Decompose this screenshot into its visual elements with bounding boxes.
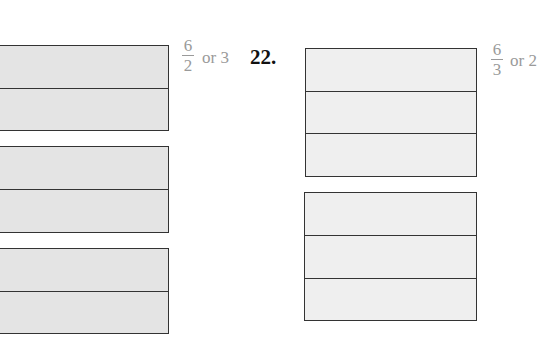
divider-line [0,88,168,89]
numerator: 6 [491,41,503,58]
fraction-bar-22-2 [304,192,477,321]
numerator: 6 [182,37,194,54]
problem-number-22: 22. [250,45,276,70]
denominator: 2 [182,57,194,74]
fraction-bar-21-1 [0,45,169,131]
answer-fraction-22: 6 3 [491,41,503,78]
answer-fraction-21: 6 2 [182,37,194,74]
divider-line [305,278,476,279]
divider-line [0,291,168,292]
divider-line [305,235,476,236]
fraction-bar-21-3 [0,248,169,334]
answer-or-text-22: or 2 [510,51,537,71]
divider-line [306,91,476,92]
fraction-bar-22-1 [305,48,477,177]
divider-line [306,133,476,134]
answer-or-text-21: or 3 [202,48,229,68]
denominator: 3 [491,61,503,78]
divider-line [0,189,168,190]
fraction-bar-21-2 [0,146,169,233]
